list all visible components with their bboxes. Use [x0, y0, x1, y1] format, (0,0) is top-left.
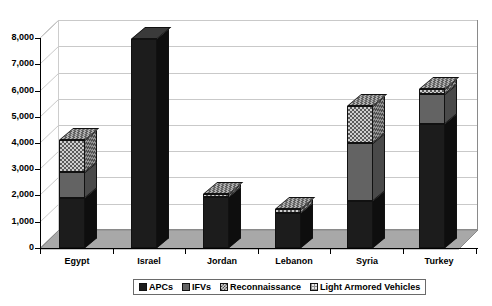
gridline-4000: [59, 125, 477, 126]
bar-face: [275, 213, 301, 248]
y-axis-label-7000: 7,000: [0, 59, 34, 68]
bar-segment-turkey-reconnaissance[interactable]: [419, 89, 445, 94]
legend-label-light-armored-vehicles: Light Armored Vehicles: [320, 282, 420, 292]
y-tick-8000: [35, 38, 41, 39]
bar-side: [229, 187, 241, 248]
chart-legend: APCs IFVs Reconnaissance Light Armored V…: [133, 279, 426, 295]
bar-face: [347, 201, 373, 248]
legend-item-ifvs[interactable]: IFVs: [182, 282, 211, 292]
gridline-5000: [59, 99, 477, 100]
legend-item-light-armored-vehicles[interactable]: Light Armored Vehicles: [310, 282, 420, 292]
bar-segment-jordan-apcs[interactable]: [203, 197, 229, 248]
gridline-diagonal-7000: [40, 46, 59, 65]
y-tick-1000: [35, 222, 41, 223]
bar-segment-turkey-ifvs[interactable]: [419, 94, 445, 124]
bar-face: [419, 124, 445, 248]
gridline-diagonal-2000: [40, 177, 59, 196]
x-axis-line: [40, 248, 478, 249]
gridline-2000: [59, 177, 477, 178]
bar-face: [419, 89, 445, 94]
bar-face: [131, 39, 157, 248]
bar-face: [275, 209, 301, 213]
gridline-diagonal-8000: [40, 20, 59, 39]
bar-side: [85, 188, 97, 248]
y-tick-4000: [35, 143, 41, 144]
legend-label-reconnaissance: Reconnaissance: [230, 282, 301, 292]
legend-label-ifvs: IFVs: [192, 282, 211, 292]
legend-swatch-ifvs-icon: [182, 283, 190, 291]
y-axis-labels: 8,000 7,000 6,000 5,000 4,000 3,000 2,00…: [0, 0, 34, 306]
y-axis-label-6000: 6,000: [0, 86, 34, 95]
bar-segment-syria-ifvs[interactable]: [347, 143, 373, 201]
y-axis-label-5000: 5,000: [0, 112, 34, 121]
x-axis-label-jordan: Jordan: [182, 256, 262, 266]
bar-segment-egypt-reconnaissance[interactable]: [59, 140, 85, 172]
bar-segment-syria-apcs[interactable]: [347, 201, 373, 248]
y-axis-label-0: 0: [0, 243, 34, 252]
y-axis-label-4000: 4,000: [0, 138, 34, 147]
gridline-diagonal-4000: [40, 125, 59, 144]
x-tick-6: [476, 249, 477, 254]
bar-segment-egypt-apcs[interactable]: [59, 198, 85, 248]
bar-side: [157, 29, 169, 248]
legend-item-reconnaissance[interactable]: Reconnaissance: [220, 282, 301, 292]
y-tick-3000: [35, 169, 41, 170]
legend-swatch-light-armored-vehicles-icon: [310, 283, 318, 291]
y-axis-label-8000: 8,000: [0, 33, 34, 42]
x-tick-1: [113, 249, 114, 254]
x-axis-label-lebanon: Lebanon: [254, 256, 334, 266]
bar-segment-syria-reconnaissance[interactable]: [347, 106, 373, 143]
x-tick-5: [403, 249, 404, 254]
legend-swatch-apcs-icon: [139, 283, 147, 291]
x-axis-label-egypt: Egypt: [37, 256, 117, 266]
bar-segment-egypt-ifvs[interactable]: [59, 172, 85, 198]
bar-side: [373, 133, 385, 201]
y-tick-2000: [35, 195, 41, 196]
bar-side: [445, 114, 457, 248]
bar-segment-turkey-apcs[interactable]: [419, 124, 445, 248]
gridline-8000: [59, 20, 477, 21]
x-axis-label-syria: Syria: [327, 256, 407, 266]
gridline-7000: [59, 46, 477, 47]
x-axis-label-israel: Israel: [109, 256, 189, 266]
legend-label-apcs: APCs: [149, 282, 173, 292]
bar-face: [347, 143, 373, 201]
bar-face: [203, 194, 229, 197]
gridline-1000: [59, 204, 477, 205]
bar-face: [347, 106, 373, 143]
gridline-diagonal-5000: [40, 99, 59, 118]
y-tick-7000: [35, 64, 41, 65]
bar-face: [59, 140, 85, 172]
plot-floor: [40, 230, 478, 249]
x-tick-4: [330, 249, 331, 254]
y-axis-label-3000: 3,000: [0, 164, 34, 173]
gridline-diagonal-6000: [40, 73, 59, 92]
bar-segment-lebanon-apcs[interactable]: [275, 213, 301, 248]
y-tick-5000: [35, 117, 41, 118]
x-tick-0: [40, 249, 41, 254]
bar-segment-lebanon-reconnaissance[interactable]: [275, 209, 301, 213]
bar-segment-jordan-reconnaissance[interactable]: [203, 194, 229, 197]
stacked-column-chart: 8,000 7,000 6,000 5,000 4,000 3,000 2,00…: [0, 0, 492, 306]
legend-item-apcs[interactable]: APCs: [139, 282, 173, 292]
x-tick-3: [258, 249, 259, 254]
legend-swatch-reconnaissance-icon: [220, 283, 228, 291]
bar-face: [203, 197, 229, 248]
y-axis-label-2000: 2,000: [0, 190, 34, 199]
gridline-diagonal-3000: [40, 151, 59, 170]
x-axis-label-turkey: Turkey: [399, 256, 479, 266]
gridline-6000: [59, 73, 477, 74]
x-tick-2: [185, 249, 186, 254]
bar-face: [59, 172, 85, 198]
y-axis-label-1000: 1,000: [0, 217, 34, 226]
gridline-3000: [59, 151, 477, 152]
gridline-diagonal-1000: [40, 204, 59, 223]
bar-face: [59, 198, 85, 248]
bar-face: [419, 94, 445, 124]
bar-segment-israel-apcs[interactable]: [131, 39, 157, 248]
y-tick-6000: [35, 91, 41, 92]
